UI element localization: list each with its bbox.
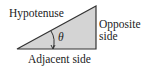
opposite-side-label-line1: Opposite bbox=[99, 18, 141, 30]
hypotenuse-label: Hypotenuse bbox=[9, 7, 64, 19]
theta-angle-label: θ bbox=[58, 31, 64, 43]
opposite-side-label-line2: side bbox=[99, 30, 118, 42]
right-triangle-diagram: Hypotenuse Opposite side Adjacent side θ bbox=[0, 0, 144, 68]
adjacent-side-label: Adjacent side bbox=[28, 53, 91, 65]
